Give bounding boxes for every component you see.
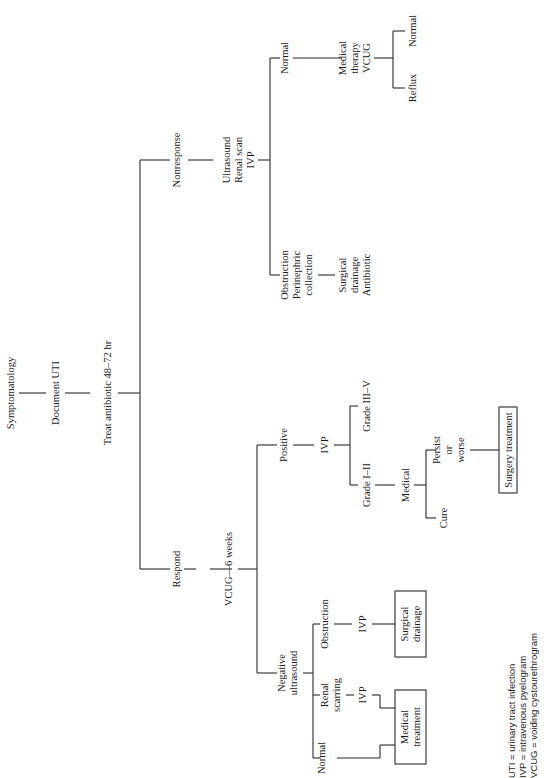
node-treat-antibiotic: Treat antibiotic 48–72 hr xyxy=(102,340,113,445)
node-grade-iii-v: Grade III–V xyxy=(361,380,372,432)
flowchart-canvas: Symptomatology Document UTI Treat antibi… xyxy=(0,0,554,778)
node-np-obstruction-line3: collection xyxy=(303,254,314,296)
node-med-therapy-line2: therapy xyxy=(349,42,360,74)
node-negative-line1: Negative xyxy=(276,654,287,692)
node-surgical-drainage-line2: drainage xyxy=(411,606,422,642)
node-renal-line2: scarring xyxy=(331,677,342,712)
node-positive-ivp: IVP xyxy=(319,436,330,453)
node-positive: Positive xyxy=(278,428,289,462)
node-nonresponse: Nonresponse xyxy=(171,132,182,187)
node-medical-treatment-line2: treatment xyxy=(411,707,422,747)
node-reflux: Reflux xyxy=(407,73,418,102)
node-obstruction-ivp: IVP xyxy=(357,615,368,632)
node-persist-line3: worse xyxy=(455,437,466,462)
node-np-surgical-line2: drainage xyxy=(349,257,360,293)
node-negative-line2: ultrasound xyxy=(288,650,299,695)
node-np-surgical-line3: Antibiotic xyxy=(361,253,372,296)
node-persist-line1: Persist xyxy=(431,436,442,464)
node-surgical-drainage-line1: Surgical xyxy=(399,607,410,642)
node-respond: Respond xyxy=(171,550,182,588)
legend-ivp: IVP = intravenous pyelogram xyxy=(517,656,528,778)
node-med-therapy-line1: Medical xyxy=(337,41,348,75)
node-cure: Cure xyxy=(438,507,449,528)
node-tests-line3: IVP xyxy=(245,151,256,168)
node-tests-line1: Ultrasound xyxy=(221,136,232,183)
node-med-therapy-line3: VCUG xyxy=(361,43,372,73)
node-np-surgical-line1: Surgical xyxy=(337,258,348,293)
trunk-connectors xyxy=(19,160,170,569)
node-renal-line1: Renal xyxy=(319,683,330,708)
node-normal: Normal xyxy=(316,742,327,774)
node-persist-line2: or xyxy=(443,445,454,454)
node-np-normal: Normal xyxy=(279,42,290,74)
node-medical: Medical xyxy=(400,468,411,502)
node-obstruction: Obstruction xyxy=(319,598,330,648)
node-normal-final: Normal xyxy=(407,15,418,47)
node-np-obstruction-line2: Perinephric xyxy=(291,250,302,299)
node-symptomatology: Symptomatology xyxy=(5,356,16,429)
node-grade-i-ii: Grade I–II xyxy=(361,462,372,507)
node-document-uti: Document UTI xyxy=(50,361,61,425)
node-vcug-6-weeks: VCUG—6 weeks xyxy=(223,532,234,606)
legend: UTI = urinary tract infection IVP = intr… xyxy=(506,633,539,778)
legend-uti: UTI = urinary tract infection xyxy=(506,664,517,778)
node-renal-ivp: IVP xyxy=(357,686,368,703)
node-surgery-treatment: Surgery treatment xyxy=(503,412,514,487)
node-tests-line2: Renal scan xyxy=(233,136,244,183)
node-np-obstruction-line1: Obstruction xyxy=(279,249,290,299)
node-medical-treatment-line1: Medical xyxy=(399,710,410,744)
legend-vcug: VCUG = voiding cystourethrogram xyxy=(528,633,539,778)
